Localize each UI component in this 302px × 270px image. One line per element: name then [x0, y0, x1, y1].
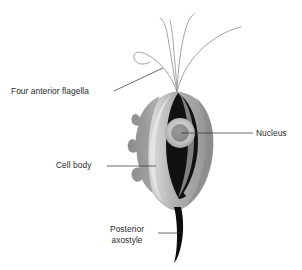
cell-body [128, 92, 213, 210]
four-anterior-flagella [134, 14, 241, 92]
label-posterior-axostyle: Posterioraxostyle [99, 224, 155, 245]
label-cell-body: Cell body [56, 160, 91, 171]
flagellum-1 [134, 52, 177, 92]
biology-diagram-figure: Four anterior flagella Nucleus Cell body… [0, 0, 302, 270]
flagellum-3 [177, 14, 194, 92]
label-nucleus: Nucleus [256, 128, 287, 139]
flagellum-4 [177, 27, 241, 92]
label-posterior-axostyle-line2: axostyle [111, 235, 142, 245]
label-posterior-axostyle-line1: Posterior [110, 224, 144, 234]
label-four-anterior-flagella: Four anterior flagella [11, 86, 89, 97]
posterior-axostyle [174, 207, 183, 263]
leader-line-flagella [114, 68, 163, 91]
